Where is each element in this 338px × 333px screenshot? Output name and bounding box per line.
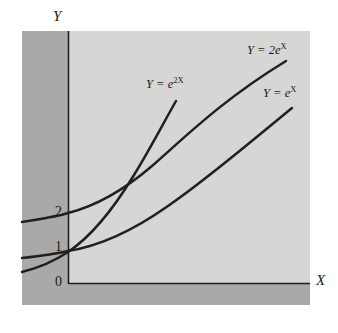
curve-label-e2x-exponent: 2X — [173, 75, 183, 85]
curve-label-2ex-prefix: Y = 2e — [247, 43, 280, 57]
curve-label-e-to-the-x: Y = eX — [263, 86, 296, 101]
x-axis-label: X — [316, 272, 325, 289]
curve-label-e-to-the-two-x: Y = e2X — [146, 77, 184, 92]
curve-label-ex-exponent: X — [290, 84, 296, 94]
curve-label-two-e-to-the-x: Y = 2eX — [247, 43, 287, 58]
y-tick-label-1: 1 — [46, 239, 62, 255]
curve-label-2ex-exponent: X — [280, 41, 286, 51]
y-axis-label: Y — [53, 8, 61, 25]
curve-label-ex-prefix: Y = e — [263, 86, 290, 100]
figure-graph-exponentials: Y X 2 1 0 Y = e2X Y = 2eX Y = eX — [0, 0, 338, 333]
y-tick-label-2: 2 — [46, 204, 62, 220]
curve-e-to-the-x — [22, 108, 292, 258]
curve-label-e2x-prefix: Y = e — [146, 77, 173, 91]
y-tick-label-0: 0 — [46, 274, 62, 290]
